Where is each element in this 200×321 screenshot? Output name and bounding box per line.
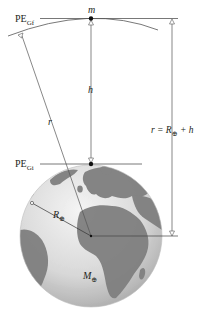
arrow-down-icon: [170, 231, 175, 236]
pe-final-label: PEGf: [15, 13, 35, 27]
height-label: h: [88, 84, 93, 95]
arrow-up-icon: [89, 20, 94, 25]
mass-point-initial: [89, 162, 93, 166]
mass-label: m: [88, 4, 95, 15]
arrow-icon: [30, 201, 33, 204]
arrow-up-icon: [170, 19, 175, 24]
diagram-canvas: m PEGf PEGi h r r = R⊕ + h R⊕ M⊕: [0, 0, 200, 321]
mass-point-final: [89, 16, 93, 20]
pe-initial-label: PEGi: [15, 158, 34, 172]
earth-center-point: [90, 235, 92, 237]
r-label: r: [48, 116, 52, 127]
r-equation-label: r = R⊕ + h: [151, 125, 194, 138]
